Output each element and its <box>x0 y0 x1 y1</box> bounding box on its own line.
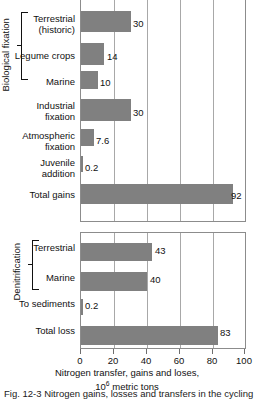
x-axis-title-line1: Nitrogen transfer, gains and loses, <box>55 367 199 378</box>
value-atmospheric-fixation: 7.6 <box>96 136 109 146</box>
x-axis-ticks <box>80 349 246 354</box>
bar-marine-gains <box>81 71 98 89</box>
bar-marine-denitrification <box>81 272 147 291</box>
figure-caption: Fig. 12-3 Nitrogen gains, losses and tra… <box>4 388 254 399</box>
gains-chart-plot-area <box>80 0 246 222</box>
label-legume-crops: Legume crops <box>0 51 75 62</box>
tick-40 <box>146 349 147 354</box>
label-atmospheric-fixation: Atmospheric fixation <box>0 131 75 152</box>
value-legume-crops: 14 <box>107 52 118 62</box>
tick-100 <box>244 349 245 354</box>
tick-0 <box>80 349 81 354</box>
tick-label-100: 100 <box>236 355 252 366</box>
label-marine-gains-line1: Marine <box>0 77 75 88</box>
group-title-biological-fixation: Biological fixation <box>1 18 11 91</box>
value-terrestrial-denitrification: 43 <box>155 246 166 256</box>
gains-bars <box>81 0 245 221</box>
label-marine-gains: Marine <box>0 77 75 88</box>
label-industrial-fixation-line2: fixation <box>0 112 75 123</box>
group-title-denitrification: Denitrification <box>12 243 22 301</box>
bar-terrestrial-denitrification <box>81 243 152 261</box>
label-terrestrial-historic: Terrestrial (historic) <box>0 14 75 35</box>
denitrification-bracket <box>32 240 39 290</box>
value-juvenile-addition: 0.2 <box>85 163 98 173</box>
label-total-gains-line1: Total gains <box>0 190 75 201</box>
label-industrial-fixation: Industrial fixation <box>0 101 75 122</box>
label-juvenile-addition-line2: addition <box>0 169 75 180</box>
label-terrestrial-historic-line1: Terrestrial <box>0 14 75 25</box>
label-total-loss: Total loss <box>0 326 75 337</box>
label-legume-crops-line1: Legume crops <box>0 51 75 62</box>
label-total-loss-line1: Total loss <box>0 326 75 337</box>
value-terrestrial-historic: 30 <box>133 19 144 29</box>
value-total-gains: 92 <box>231 191 242 201</box>
bar-total-loss <box>81 326 218 345</box>
label-atmospheric-fixation-line1: Atmospheric <box>0 131 75 142</box>
label-juvenile-addition-line1: Juvenile <box>0 158 75 169</box>
biological-fixation-bracket <box>21 12 28 80</box>
tick-60 <box>179 349 180 354</box>
tick-label-80: 80 <box>207 355 218 366</box>
tick-label-40: 40 <box>141 355 152 366</box>
tick-80 <box>212 349 213 354</box>
bar-to-sediments <box>81 299 83 315</box>
value-marine-denitrification: 40 <box>150 275 161 285</box>
value-to-sediments: 0.2 <box>85 301 98 311</box>
value-industrial-fixation: 30 <box>133 108 144 118</box>
bar-industrial-fixation <box>81 99 131 121</box>
label-terrestrial-historic-line2: (historic) <box>0 25 75 36</box>
bracket-nub <box>28 264 33 265</box>
label-atmospheric-fixation-line2: fixation <box>0 142 75 153</box>
bracket-nub <box>17 45 22 46</box>
label-industrial-fixation-line1: Industrial <box>0 101 75 112</box>
label-juvenile-addition: Juvenile addition <box>0 158 75 179</box>
value-total-loss: 83 <box>220 328 231 338</box>
bar-legume-crops <box>81 43 104 65</box>
tick-20 <box>113 349 114 354</box>
label-to-sediments: To sediments <box>0 299 75 310</box>
bar-terrestrial-historic <box>81 11 131 32</box>
label-total-gains: Total gains <box>0 190 75 201</box>
tick-label-20: 20 <box>108 355 119 366</box>
x-axis-tick-labels: 0 20 40 60 80 100 <box>80 355 246 367</box>
tick-label-60: 60 <box>174 355 185 366</box>
value-marine-gains: 10 <box>100 78 111 88</box>
bar-atmospheric-fixation <box>81 129 94 146</box>
tick-label-0: 0 <box>77 355 82 366</box>
bar-juvenile-addition <box>81 156 83 172</box>
label-to-sediments-line1: To sediments <box>0 299 75 310</box>
bar-total-gains <box>81 184 233 204</box>
